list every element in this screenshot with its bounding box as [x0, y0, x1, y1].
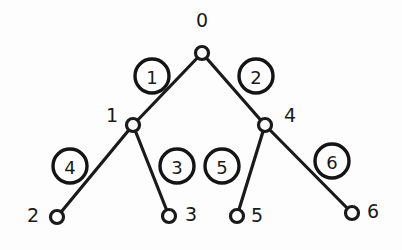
tree-diagram-canvas: 0142356 124356	[0, 0, 402, 250]
edge-badge-label-6: 6	[326, 152, 337, 173]
edge-badge-6: 6	[315, 144, 349, 178]
tree-node-label-3: 3	[185, 203, 197, 225]
edge-badge-label-3: 3	[171, 157, 182, 178]
edge-badge-label-1: 1	[146, 67, 157, 88]
edge-badge-2: 2	[239, 59, 273, 93]
tree-node-label-4: 4	[284, 104, 296, 126]
tree-node-label-5: 5	[251, 204, 263, 226]
edge-badge-5: 5	[205, 149, 239, 183]
edge-badge-4: 4	[53, 149, 87, 183]
tree-node-label-1: 1	[106, 104, 118, 126]
tree-node-label-0: 0	[196, 9, 208, 31]
edge-badge-3: 3	[160, 149, 194, 183]
edge-badge-label-2: 2	[250, 67, 261, 88]
tree-node-6	[346, 207, 359, 220]
tree-node-4	[259, 119, 272, 132]
tree-node-labels-group: 0142356	[27, 9, 379, 226]
edge-badge-label-5: 5	[216, 157, 227, 178]
tree-edge-5	[237, 125, 265, 216]
tree-node-5	[231, 210, 244, 223]
edge-badge-label-4: 4	[64, 157, 75, 178]
tree-node-label-6: 6	[367, 200, 379, 222]
tree-node-3	[163, 210, 176, 223]
tree-node-2	[51, 211, 64, 224]
binary-tree-graphic: 0142356 124356	[0, 0, 402, 250]
tree-nodes-group	[51, 47, 359, 224]
edge-badge-1: 1	[135, 59, 169, 93]
tree-node-1	[127, 119, 140, 132]
tree-edges-group	[57, 53, 352, 217]
tree-node-0	[196, 47, 209, 60]
tree-node-label-2: 2	[27, 204, 39, 226]
